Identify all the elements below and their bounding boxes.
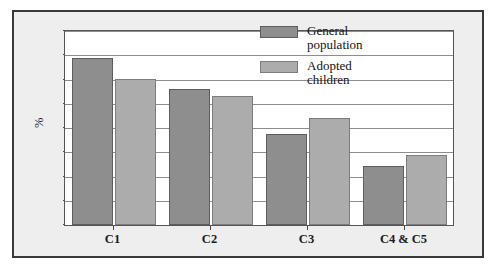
y-axis-title: % (32, 118, 47, 128)
legend-swatch-adopted (260, 61, 298, 73)
bar-general-c3 (266, 134, 307, 225)
legend-item-general: General population (260, 24, 363, 52)
legend-label: Adopted children (307, 59, 352, 87)
bar-general-c1 (72, 58, 113, 225)
legend-label: General population (307, 24, 363, 52)
x-tick-label: C3 (299, 232, 314, 247)
bar-adopted-c1 (115, 79, 156, 225)
bar-adopted-c3 (309, 118, 350, 225)
bar-general-c4-c5 (363, 166, 404, 225)
legend-item-adopted: Adopted children (260, 59, 352, 87)
bar-adopted-c4-c5 (406, 155, 447, 225)
x-tick-mark (307, 225, 308, 230)
x-tick-label: C2 (202, 232, 217, 247)
plot-area (64, 30, 454, 226)
legend-swatch-general (260, 26, 298, 38)
x-tick-mark (404, 225, 405, 230)
chart-figure: % 020406080 C1C2C3C4 & C5 General popula… (12, 10, 484, 258)
bar-general-c2 (169, 89, 210, 225)
bar-series-container (65, 31, 453, 225)
x-tick-label: C4 & C5 (380, 232, 427, 247)
x-tick-mark (113, 225, 114, 230)
x-tick-mark (210, 225, 211, 230)
x-tick-label: C1 (105, 232, 120, 247)
bar-adopted-c2 (212, 96, 253, 225)
